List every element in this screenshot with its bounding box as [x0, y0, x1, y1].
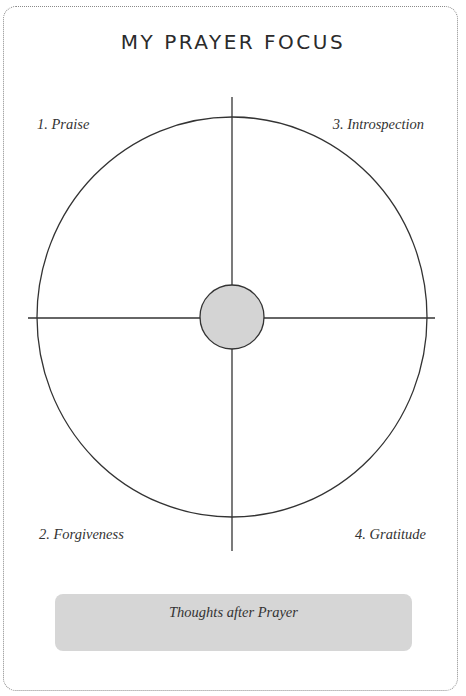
- quadrant-label-gratitude: 4. Gratitude: [355, 526, 426, 543]
- center-circle: [200, 285, 264, 349]
- thoughts-after-prayer-label: Thoughts after Prayer: [55, 604, 412, 621]
- quadrant-label-forgiveness: 2. Forgiveness: [39, 526, 124, 543]
- quadrant-label-introspection: 3. Introspection: [333, 116, 424, 133]
- prayer-focus-diagram: [0, 0, 466, 696]
- thoughts-after-prayer-box: Thoughts after Prayer: [55, 594, 412, 651]
- quadrant-label-praise: 1. Praise: [37, 116, 89, 133]
